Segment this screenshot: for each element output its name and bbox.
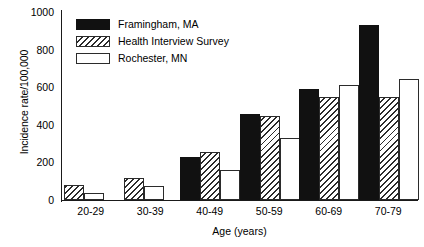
y-tick-label-600: 600 [0, 82, 54, 93]
x-axis-line [61, 200, 418, 201]
bar-rochester-70-79 [399, 79, 419, 200]
y-tick-label-400: 400 [0, 120, 54, 131]
bar-rochester-60-69 [339, 85, 359, 200]
bar-rochester-20-29 [84, 193, 104, 200]
bar-group-60-69 [299, 12, 359, 200]
bar-health-interview-survey-50-59 [260, 116, 280, 200]
bar-rochester-30-39 [144, 186, 164, 200]
bar-framingham-50-59 [240, 114, 260, 201]
y-tick-label-800: 800 [0, 45, 54, 56]
legend-label-rochester: Rochester, MN [118, 53, 187, 64]
legend-item-rochester: Rochester, MN [76, 51, 229, 66]
bar-rochester-50-59 [280, 138, 300, 200]
y-tick-label-1000: 1000 [0, 7, 54, 18]
legend-item-framingham: Framingham, MA [76, 17, 229, 32]
x-tick-label-60-69: 60-69 [299, 205, 359, 217]
bar-group-50-59 [240, 12, 300, 200]
legend-label-framingham: Framingham, MA [118, 19, 199, 30]
legend-item-health-interview-survey: Health Interview Survey [76, 34, 229, 49]
legend-swatch-hatch-icon [76, 36, 110, 47]
bar-chart: Incidence rate/100,000 0 200 400 600 800… [0, 0, 424, 247]
bar-health-interview-survey-40-49 [200, 152, 220, 200]
bar-framingham-60-69 [299, 89, 319, 200]
x-axis-title: Age (years) [61, 225, 418, 237]
chart-legend: Framingham, MA Health Interview Survey R… [76, 17, 229, 68]
bar-health-interview-survey-60-69 [319, 97, 339, 200]
x-tick-label-50-59: 50-59 [240, 205, 300, 217]
bar-framingham-40-49 [180, 157, 200, 200]
legend-swatch-open-icon [76, 53, 110, 64]
y-tick-label-200: 200 [0, 157, 54, 168]
bar-health-interview-survey-70-79 [379, 97, 399, 200]
y-tick-label-0: 0 [0, 195, 54, 206]
bar-health-interview-survey-30-39 [124, 178, 144, 200]
bar-group-70-79 [359, 12, 419, 200]
x-tick-label-30-39: 30-39 [121, 205, 181, 217]
bar-framingham-70-79 [359, 25, 379, 200]
x-tick-label-20-29: 20-29 [61, 205, 121, 217]
y-axis-ticks: 0 200 400 600 800 1000 [0, 0, 58, 247]
x-tick-label-70-79: 70-79 [359, 205, 419, 217]
legend-label-health-interview-survey: Health Interview Survey [118, 36, 229, 47]
x-tick-label-40-49: 40-49 [180, 205, 240, 217]
bar-rochester-40-49 [220, 170, 240, 200]
bar-health-interview-survey-20-29 [64, 185, 84, 200]
legend-swatch-solid-icon [76, 19, 110, 30]
